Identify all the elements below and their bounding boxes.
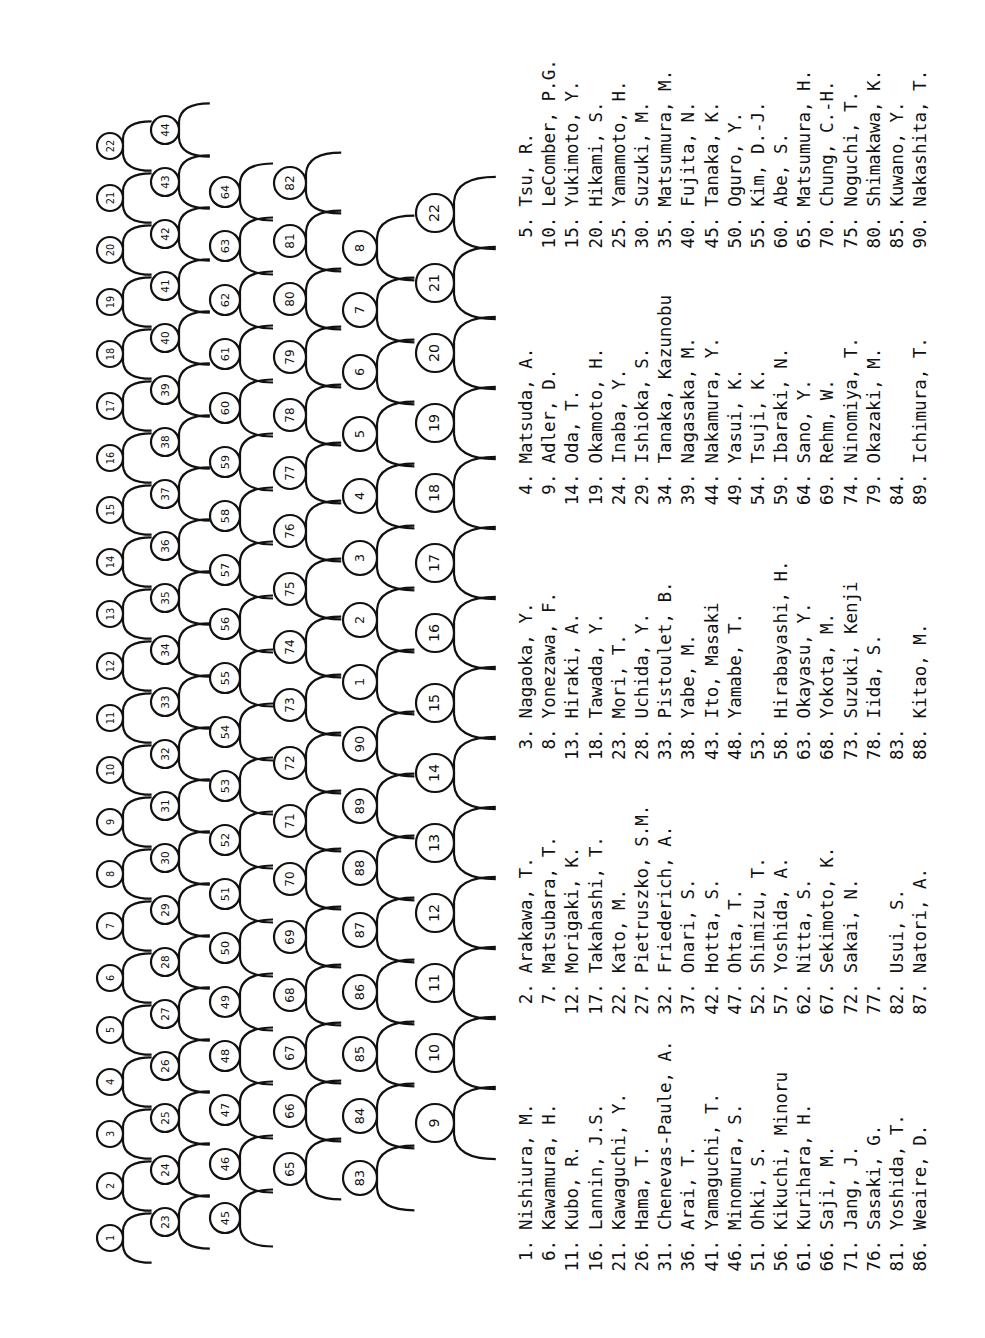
figure-number: 40 [159,331,171,344]
person-silhouette: 22 [416,177,496,249]
name-entry: 68.Yokota, M. [816,522,839,777]
entry-name: Matsumura, M. [655,70,675,207]
entry-number: 60. [770,217,793,265]
entry-name: Hotta, S. [702,878,722,973]
figure-number: 87 [352,922,367,938]
entry-name: Tsuji, K. [748,369,768,464]
entry-name: Inaba, Y. [609,369,629,464]
name-entry: 58.Hirabayashi, H. [770,522,793,777]
figure-number: 86 [352,984,367,1000]
entry-name: Hama, T. [632,1146,652,1230]
name-entry: 54.Tsuji, K. [747,265,770,522]
person-silhouette: 82 [274,153,341,214]
entry-number: 6. [538,1240,561,1288]
entry-number: 90. [909,217,932,265]
entry-number: 26. [631,1240,654,1288]
name-entry: 15.Yukimoto, Y. [561,8,584,265]
person-silhouette: 30 [151,831,210,884]
name-entry: 66.Saji, M. [816,1031,839,1288]
name-entry: 52.Shimizu, T. [747,776,770,1031]
figure-number: 8 [105,871,116,877]
name-entry: 86.Weaire, D. [909,1031,932,1288]
entry-number: 63. [793,728,816,776]
figure-number: 8 [352,244,367,252]
entry-number: 80. [863,217,886,265]
figure-number: 47 [219,1103,232,1117]
figure-number: 7 [105,923,116,929]
person-silhouette: 70 [274,849,341,910]
entry-name: Hirabayashi, H. [771,560,791,718]
name-entry: 10.LeComber, P.G. [538,8,561,265]
figure-number: 20 [426,344,442,362]
person-silhouette: 53 [210,758,273,815]
entry-name: Weaire, D. [910,1125,930,1230]
entry-number: 84. [886,474,909,522]
figure-number: 30 [159,851,171,864]
figure-number: 14 [105,556,116,568]
figure-number: 66 [283,1103,297,1118]
name-entry: 55.Kim, D.-J. [747,8,770,265]
person-silhouette: 6 [97,953,152,1002]
entry-number: 31. [654,1240,677,1288]
figure-number: 18 [105,348,116,360]
name-entry: 44.Nakamura, Y. [701,265,724,522]
figure-number: 12 [105,660,116,672]
entry-name: Ibaraki, N. [771,348,791,464]
name-entry: 25.Yamamoto, H. [608,8,631,265]
name-entry: 75.Noguchi, T. [840,8,863,265]
name-entry: 18.Tawada, Y. [585,522,608,777]
entry-number: 73. [840,728,863,776]
figure-number: 79 [283,349,297,364]
person-silhouette: 15 [416,667,496,739]
name-entry: 47.Ohta, T. [724,776,747,1031]
person-silhouette: 50 [210,920,273,977]
entry-number: 49. [724,474,747,522]
figure-number: 13 [426,834,442,852]
entry-name: Shimizu, T. [748,857,768,973]
figure-number: 39 [159,383,171,396]
person-silhouette: 33 [151,675,210,728]
entry-number: 19. [585,474,608,522]
person-silhouette: 9 [416,1087,496,1159]
person-silhouette: 57 [210,542,273,599]
figure-number: 29 [159,903,171,916]
entry-name: Pietruszko, S.M. [632,805,652,974]
entry-number: 44. [701,474,724,522]
person-silhouette: 19 [416,387,496,459]
entry-number: 39. [677,474,700,522]
person-silhouette: 10 [97,745,152,794]
entry-name: Okazaki, M. [864,348,884,464]
person-silhouette: 88 [343,836,414,901]
entry-number: 42. [701,983,724,1031]
figure-number: 9 [105,819,116,825]
figure-number: 2 [105,1183,116,1189]
person-silhouette: 20 [416,317,496,389]
figure-number: 76 [283,523,297,538]
figure-number: 33 [159,695,171,708]
figure-number: 67 [283,1045,297,1060]
name-entry: 81.Yoshida, T. [886,1031,909,1288]
name-entry: 82.Usui, S. [886,776,909,1031]
name-entry: 35.Matsumura, M. [654,8,677,265]
name-entry: 36.Arai, T. [677,1031,700,1288]
figure-number: 38 [159,435,171,448]
entry-number: 77. [863,983,886,1031]
person-silhouette: 24 [151,1143,210,1196]
figure-number: 61 [219,347,232,361]
figure-number: 12 [426,904,442,922]
entry-name: Kurihara, H. [794,1104,814,1230]
name-entry: 48.Yamabe, T. [724,522,747,777]
person-silhouette: 11 [416,947,496,1019]
entry-number: 65. [793,217,816,265]
figure-number: 5 [105,1027,116,1033]
person-silhouette: 13 [416,807,496,879]
entry-name: Jang, J. [841,1146,861,1230]
name-entry: 3.Nagaoka, Y. [515,522,538,777]
figure-number: 62 [219,293,232,307]
name-entry: 59.Ibaraki, N. [770,265,793,522]
name-entry: 4.Matsuda, A. [515,265,538,522]
entry-name: Tanaka, Kazunobu [655,295,675,464]
name-entry: 26.Hama, T. [631,1031,654,1288]
entry-number: 34. [654,474,677,522]
figure-number: 41 [159,279,171,292]
